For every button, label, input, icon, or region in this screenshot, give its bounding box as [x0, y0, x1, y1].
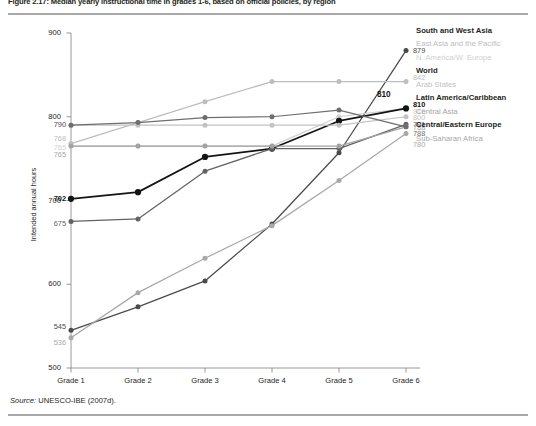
data-point: [203, 278, 208, 283]
data-point: [337, 108, 342, 113]
data-point: [337, 178, 342, 183]
data-point: [135, 189, 141, 195]
data-point: [69, 335, 74, 340]
data-point: [203, 115, 208, 120]
data-point: [203, 256, 208, 261]
legend-item-n-america-w-europe[interactable]: N. America/W. Europe: [416, 51, 534, 64]
data-point: [202, 154, 208, 160]
data-point: [337, 123, 342, 128]
data-point: [270, 79, 275, 84]
legend-item-arab-states[interactable]: Arab States: [416, 78, 534, 91]
legend: South and West AsiaEast Asia and the Pac…: [416, 24, 534, 145]
start-value-label: 702: [32, 194, 66, 203]
data-point: [337, 144, 342, 149]
data-point: [270, 223, 275, 228]
series-east-asia-and-the-pacific: [69, 79, 409, 146]
legend-item-south-and-west-asia[interactable]: South and West Asia: [416, 24, 534, 37]
highlight-value-label: 810: [377, 90, 391, 99]
series-south-and-west-asia: [69, 48, 409, 333]
data-point: [68, 196, 74, 202]
data-point: [270, 123, 275, 128]
data-point: [136, 216, 141, 221]
data-point: [69, 123, 74, 128]
data-point: [203, 99, 208, 104]
data-point: [136, 290, 141, 295]
series-central-eastern-europe: [69, 108, 409, 130]
data-point: [136, 304, 141, 309]
source-text: UNESCO-IBE (2007d).: [38, 396, 116, 405]
data-point: [404, 131, 409, 136]
source-prefix: Source:: [10, 396, 36, 405]
series-latin-america-caribbean: [69, 122, 409, 224]
start-value-label: 536: [32, 338, 66, 347]
data-point: [69, 219, 74, 224]
data-point: [337, 79, 342, 84]
legend-item-world[interactable]: World: [416, 64, 534, 77]
data-point: [270, 144, 275, 149]
legend-item-east-asia-and-the-pacific[interactable]: East Asia and the Pacific: [416, 37, 534, 50]
data-point: [404, 48, 409, 53]
data-point: [203, 169, 208, 174]
data-point: [404, 114, 409, 119]
data-point: [270, 114, 275, 119]
data-point: [203, 144, 208, 149]
legend-item-central-asia[interactable]: Central Asia: [416, 105, 534, 118]
data-point: [136, 120, 141, 125]
source-note: Source: UNESCO-IBE (2007d).: [10, 396, 116, 405]
legend-item-central-eastern-europe[interactable]: Central/Eastern Europe: [416, 118, 534, 131]
data-point: [203, 123, 208, 128]
start-value-label: 768: [32, 134, 66, 143]
data-point: [69, 328, 74, 333]
figure-container: Figure 2.17: Median yearly instructional…: [0, 0, 536, 426]
data-point: [404, 79, 409, 84]
data-point: [403, 105, 409, 111]
start-value-label: 545: [32, 322, 66, 331]
data-point: [404, 124, 409, 129]
start-value-label: 675: [32, 219, 66, 228]
start-value-label: 790: [32, 120, 66, 129]
start-value-label: 765: [32, 150, 66, 159]
legend-item-sub-saharan-africa[interactable]: Sub-Saharan Africa: [416, 132, 534, 145]
series-sub-saharan-africa: [69, 131, 409, 340]
legend-item-latin-america-caribbean[interactable]: Latin America/Caribbean: [416, 91, 534, 104]
data-point: [69, 144, 74, 149]
series-world: [68, 105, 409, 202]
data-point: [136, 144, 141, 149]
